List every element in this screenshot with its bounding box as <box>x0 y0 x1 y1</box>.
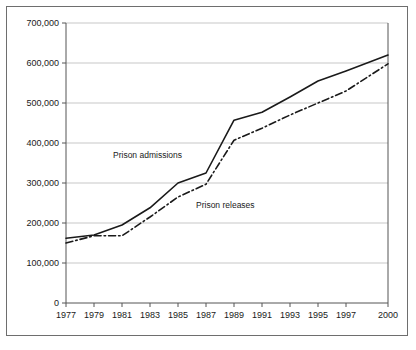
line-chart: 0100,000200,000300,000400,000500,000600,… <box>0 0 416 350</box>
series-annotation-label: Prison releases <box>196 200 255 210</box>
y-axis-tick-labels: 0100,000200,000300,000400,000500,000600,… <box>26 18 59 308</box>
x-axis-tick-label: 1983 <box>140 310 160 320</box>
y-axis-tick-label: 0 <box>54 298 59 308</box>
x-axis-tick-label: 1979 <box>84 310 104 320</box>
series-prison-admissions-line <box>66 55 388 238</box>
y-axis-tick-label: 600,000 <box>26 58 59 68</box>
x-axis-tick-label: 1981 <box>112 310 132 320</box>
y-axis-tick-label: 500,000 <box>26 98 59 108</box>
series-annotation-label: Prison admissions <box>113 150 182 160</box>
y-axis-tick-label: 400,000 <box>26 138 59 148</box>
x-axis-tick-label: 1985 <box>168 310 188 320</box>
x-axis-tick-label: 1993 <box>280 310 300 320</box>
x-axis-tick-labels: 1977197919811983198519871989199119931995… <box>56 310 398 320</box>
x-axis-tick-label: 1997 <box>336 310 356 320</box>
y-axis-tick-label: 700,000 <box>26 18 59 28</box>
x-axis-tick-label: 2000 <box>378 310 398 320</box>
x-axis-tick-label: 1991 <box>252 310 272 320</box>
y-axis-tick-label: 300,000 <box>26 178 59 188</box>
x-axis-tick-label: 1989 <box>224 310 244 320</box>
data-series <box>66 55 388 243</box>
x-axis-tick-label: 1987 <box>196 310 216 320</box>
chart-screenshot: 0100,000200,000300,000400,000500,000600,… <box>0 0 416 350</box>
y-axis-tick-label: 200,000 <box>26 218 59 228</box>
x-axis <box>66 303 388 307</box>
x-axis-tick-label: 1995 <box>308 310 328 320</box>
x-axis-tick-label: 1977 <box>56 310 76 320</box>
y-axis-tick-label: 100,000 <box>26 258 59 268</box>
series-annotations: Prison admissionsPrison releases <box>113 150 255 210</box>
y-axis <box>62 23 66 303</box>
